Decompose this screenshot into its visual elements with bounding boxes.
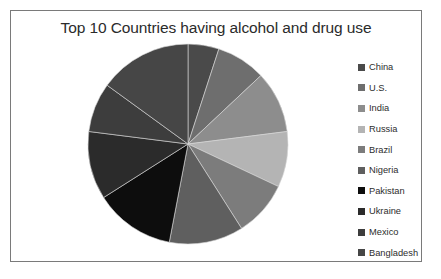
legend-label-china: China	[369, 62, 393, 72]
chart-legend: ChinaU.S.IndiaRussiaBrazilNigeriaPakista…	[358, 57, 434, 263]
legend-swatch-icon-pakistan	[358, 187, 365, 194]
legend-label-u-s: U.S.	[369, 83, 387, 93]
legend-item-nigeria[interactable]: Nigeria	[358, 160, 434, 181]
legend-item-russia[interactable]: Russia	[358, 119, 434, 140]
legend-label-india: India	[369, 103, 389, 113]
legend-swatch-icon-mexico	[358, 229, 365, 236]
legend-label-pakistan: Pakistan	[369, 186, 405, 196]
legend-label-ukraine: Ukraine	[369, 206, 401, 216]
pie-chart-svg	[87, 43, 289, 245]
legend-swatch-icon-china	[358, 64, 365, 71]
legend-swatch-icon-nigeria	[358, 167, 365, 174]
legend-swatch-icon-brazil	[358, 146, 365, 153]
legend-swatch-icon-russia	[358, 126, 365, 133]
legend-item-mexico[interactable]: Mexico	[358, 222, 434, 243]
legend-item-china[interactable]: China	[358, 57, 434, 78]
legend-swatch-icon-u-s	[358, 84, 365, 91]
legend-label-russia: Russia	[369, 124, 397, 134]
legend-item-ukraine[interactable]: Ukraine	[358, 201, 434, 222]
legend-label-mexico: Mexico	[369, 227, 398, 237]
legend-item-u-s[interactable]: U.S.	[358, 78, 434, 99]
legend-swatch-icon-ukraine	[358, 208, 365, 215]
legend-swatch-icon-india	[358, 105, 365, 112]
legend-swatch-icon-bangladesh	[358, 249, 365, 256]
legend-label-brazil: Brazil	[369, 145, 392, 155]
legend-item-brazil[interactable]: Brazil	[358, 139, 434, 160]
pie-chart[interactable]	[87, 43, 289, 245]
legend-item-bangladesh[interactable]: Bangladesh	[358, 242, 434, 263]
chart-frame: Top 10 Countries having alcohol and drug…	[10, 10, 422, 262]
pie-slice-group	[88, 44, 288, 244]
legend-item-india[interactable]: India	[358, 98, 434, 119]
legend-item-pakistan[interactable]: Pakistan	[358, 181, 434, 202]
chart-title: Top 10 Countries having alcohol and drug…	[11, 19, 421, 37]
legend-label-bangladesh: Bangladesh	[369, 248, 418, 258]
legend-label-nigeria: Nigeria	[369, 165, 398, 175]
